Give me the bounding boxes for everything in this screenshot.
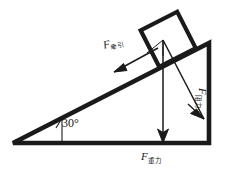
force-subscript-gravity: 重力 bbox=[148, 157, 162, 165]
diagram-canvas: F牵引 F重力 F阻力 30° bbox=[0, 0, 244, 169]
force-vector-applied bbox=[114, 48, 158, 72]
force-label-applied: F牵引 bbox=[101, 31, 125, 51]
block-on-incline bbox=[141, 12, 196, 67]
force-label-resistance: F阻力 bbox=[196, 88, 212, 109]
block-outline bbox=[141, 12, 196, 67]
force-label-gravity: F重力 bbox=[141, 147, 162, 163]
inclined-plane-diagram bbox=[0, 0, 244, 169]
incline-angle-label: 30° bbox=[62, 117, 79, 129]
force-symbol-resistance: F bbox=[197, 88, 209, 95]
force-subscript-resistance: 阻力 bbox=[195, 95, 203, 109]
force-vector-gravity bbox=[158, 40, 169, 143]
force-symbol-gravity: F bbox=[141, 150, 148, 162]
force-applied-arrowhead bbox=[114, 64, 127, 73]
